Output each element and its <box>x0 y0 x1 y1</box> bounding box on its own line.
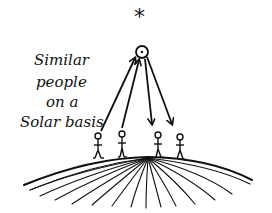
arrow-up-2 <box>122 60 139 128</box>
stick-figure-4 <box>176 134 186 160</box>
stick-figure-3 <box>154 132 164 158</box>
globe-icon <box>24 157 252 208</box>
sun-icon <box>136 46 148 58</box>
stick-figure-2 <box>118 131 127 157</box>
diagram-drawing <box>0 0 272 213</box>
diagram-canvas: * Similar people on a Solar basis <box>0 0 272 213</box>
stick-figure-1 <box>93 133 104 158</box>
arrows <box>101 57 172 131</box>
